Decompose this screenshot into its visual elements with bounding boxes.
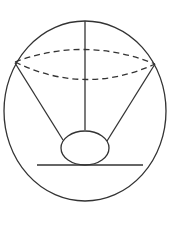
cone-side-right (107, 64, 155, 141)
cone-side-left (15, 63, 63, 140)
inner-sphere (61, 131, 109, 165)
diagram-canvas (0, 0, 175, 231)
